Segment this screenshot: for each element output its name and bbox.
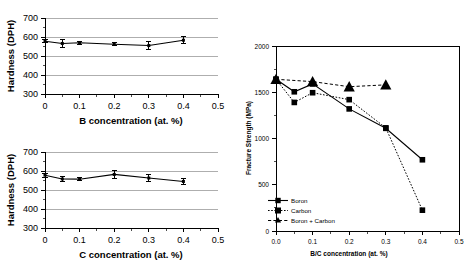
- chart-hardness-vs-boron: 700 600 500 400 300: [0, 0, 236, 133]
- x-tick-label: 0.4: [418, 238, 427, 245]
- x-tick-label: 0.3: [143, 235, 156, 245]
- legend-item-boron-plus-carbon: Boron + Carbon: [268, 217, 335, 224]
- data-point-marker: [383, 125, 389, 131]
- x-tick-label: 0: [42, 101, 47, 111]
- x-tick-label: 0.1: [73, 101, 86, 111]
- data-point-marker: [310, 90, 316, 96]
- fracture-strength-svg: 2000 1500 1000 500 0 0.0: [236, 0, 472, 271]
- x-tick-labels: 0 0.1 0.2 0.3 0.4 0.5: [42, 101, 224, 111]
- legend: Boron Carbon Boron + Carbon: [268, 197, 335, 224]
- data-point-marker: [44, 174, 47, 177]
- y-tick-label: 400: [23, 204, 38, 214]
- x-tick-label: 0.1: [308, 238, 317, 245]
- data-point-marker: [292, 89, 298, 95]
- y-tick-labels: 2000 1500 1000 500 0: [255, 43, 270, 235]
- x-ticks: [45, 228, 218, 232]
- y-tick-label: 1500: [255, 89, 270, 96]
- y-ticks: [41, 18, 45, 94]
- x-tick-label: 0.1: [73, 235, 86, 245]
- legend-item-boron: Boron: [268, 197, 308, 204]
- data-point-marker: [380, 79, 391, 89]
- gridlines: [45, 18, 218, 75]
- data-point-marker: [346, 97, 352, 103]
- gridlines: [45, 152, 218, 209]
- x-tick-labels: 0 0.1 0.2 0.3 0.4 0.5: [42, 235, 224, 245]
- y-tick-label: 600: [23, 32, 38, 42]
- data-point-marker: [182, 39, 185, 42]
- y-tick-label: 1000: [255, 135, 270, 142]
- data-point-marker: [44, 40, 47, 43]
- y-tick-label: 2000: [255, 43, 270, 50]
- y-tick-labels: 700 600 500 400 300: [23, 147, 38, 233]
- y-axis-title: Hardness (DPH): [5, 20, 16, 92]
- chart-hardness-vs-carbon: 700 600 500 400 300 0 0.1: [0, 134, 236, 271]
- y-tick-label: 0: [265, 228, 269, 235]
- x-tick-labels: 0.0 0.1 0.2 0.3 0.4 0.5: [271, 238, 463, 245]
- x-axis-title: B/C concentration (at. %): [310, 250, 387, 258]
- x-axis-title: B concentration (at. %): [79, 115, 182, 126]
- legend-label: Carbon: [291, 207, 312, 214]
- y-tick-label: 300: [23, 89, 38, 99]
- y-tick-label: 500: [23, 185, 38, 195]
- data-point-marker: [270, 74, 281, 84]
- data-series-hardness-boron: [42, 37, 186, 50]
- y-tick-label: 500: [23, 51, 38, 61]
- y-tick-label: 600: [23, 166, 38, 176]
- figure-root: 700 600 500 400 300: [0, 0, 472, 271]
- legend-label: Boron: [291, 197, 308, 204]
- y-ticks: [272, 46, 276, 231]
- x-tick-label: 0.5: [454, 238, 463, 245]
- data-point-marker: [292, 100, 298, 106]
- hardness-vs-carbon-svg: 700 600 500 400 300 0 0.1: [0, 134, 236, 271]
- x-tick-label: 0.4: [177, 235, 190, 245]
- data-point-marker: [420, 207, 426, 213]
- x-tick-label: 0.5: [212, 101, 225, 111]
- data-series-fracture-strength: [270, 74, 425, 213]
- y-tick-label: 700: [23, 147, 38, 157]
- chart-fracture-strength-vs-bc: 2000 1500 1000 500 0 0.0: [236, 0, 472, 271]
- data-point-marker: [346, 106, 352, 112]
- y-tick-label: 400: [23, 70, 38, 80]
- x-tick-label: 0.3: [381, 238, 390, 245]
- data-point-marker: [147, 44, 150, 47]
- data-point-marker: [182, 180, 185, 183]
- y-ticks: [41, 152, 45, 228]
- y-tick-label: 500: [258, 181, 269, 188]
- y-axis-title: Fracture Strength (MPa): [245, 101, 253, 175]
- data-point-marker: [78, 178, 81, 181]
- data-point-marker: [61, 42, 64, 45]
- data-point-marker: [420, 157, 426, 163]
- data-point-marker: [147, 177, 150, 180]
- series-line-boron-carbon: [276, 79, 386, 86]
- x-axis-title: C concentration (at. %): [79, 249, 182, 260]
- y-tick-labels: 700 600 500 400 300: [23, 13, 38, 99]
- data-series-hardness-carbon: [42, 170, 186, 184]
- hardness-vs-boron-svg: 700 600 500 400 300: [0, 0, 236, 133]
- x-tick-label: 0.3: [143, 101, 156, 111]
- data-point-marker: [113, 43, 116, 46]
- x-tick-label: 0.5: [212, 235, 225, 245]
- x-ticks: [276, 231, 459, 235]
- x-tick-label: 0.2: [108, 235, 121, 245]
- x-tick-label: 0.0: [271, 238, 280, 245]
- y-axis-title: Hardness (DPH): [5, 154, 16, 226]
- x-ticks: [45, 94, 218, 98]
- x-tick-label: 0: [42, 235, 47, 245]
- data-point-marker: [61, 177, 64, 180]
- data-point-marker: [78, 41, 81, 44]
- legend-label: Boron + Carbon: [291, 217, 335, 224]
- y-tick-label: 700: [23, 13, 38, 23]
- data-point-marker: [113, 173, 116, 176]
- x-tick-label: 0.4: [177, 101, 190, 111]
- x-tick-label: 0.2: [345, 238, 354, 245]
- y-tick-label: 300: [23, 223, 38, 233]
- x-tick-label: 0.2: [108, 101, 121, 111]
